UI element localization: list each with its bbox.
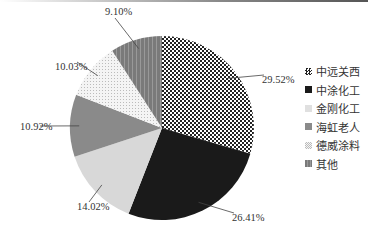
legend-label: 中涂化工 (316, 82, 360, 98)
legend-swatch-icon (305, 160, 312, 167)
data-label-5: 9.10% (105, 6, 132, 17)
legend-swatch-icon (305, 142, 312, 149)
legend-item: 海虹老人 (305, 118, 360, 137)
legend-swatch-icon (305, 123, 312, 130)
data-label-2: 14.02% (77, 201, 110, 212)
legend-item: 中远关西 (305, 62, 360, 81)
legend-swatch-icon (305, 86, 312, 93)
legend-swatch-icon (305, 68, 312, 75)
legend-label: 中远关西 (316, 63, 360, 79)
data-label-1: 26.41% (232, 212, 265, 223)
data-label-4: 10.03% (55, 61, 88, 72)
data-label-3: 10.92% (20, 121, 53, 132)
data-label-0: 29.52% (262, 74, 295, 85)
legend-label: 金刚化工 (316, 100, 360, 116)
legend-swatch-icon (305, 105, 312, 112)
legend-item: 德威涂料 (305, 136, 360, 155)
legend: 中远关西中涂化工金刚化工海虹老人德威涂料其他 (305, 62, 360, 173)
legend-label: 其他 (316, 156, 338, 172)
legend-label: 海虹老人 (316, 119, 360, 135)
legend-label: 德威涂料 (316, 137, 360, 153)
legend-item: 中涂化工 (305, 81, 360, 100)
legend-item: 金刚化工 (305, 99, 360, 118)
legend-item: 其他 (305, 155, 360, 174)
